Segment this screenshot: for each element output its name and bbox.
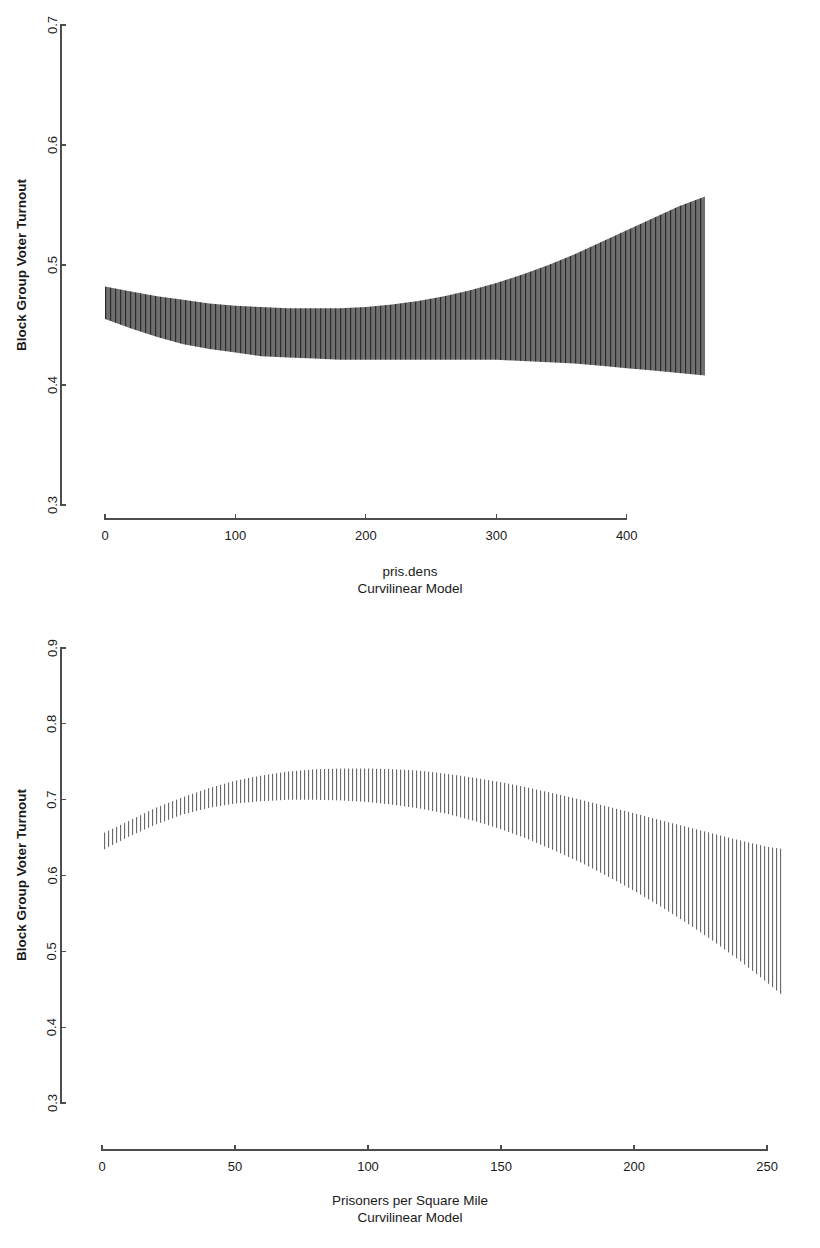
y-tick-label: 0.6: [45, 866, 60, 884]
chart-subtitle-1: Curvilinear Model: [357, 581, 462, 596]
y-axis-title-2: Block Group Voter Turnout: [14, 789, 29, 961]
y-axis-title-1: Block Group Voter Turnout: [14, 179, 29, 351]
x-tick-label: 200: [355, 528, 377, 543]
x-tick-label: 400: [616, 528, 638, 543]
y-tick-label: 0.7: [45, 16, 60, 34]
y-tick-label: 0.8: [45, 715, 60, 733]
band-region-2: [102, 769, 783, 996]
chart-panel-prisoners-per-square-mile: 0.30.40.50.60.70.80.9 050100150200250 Bl…: [0, 620, 820, 1248]
x-axis-title-2: Prisoners per Square Mile: [332, 1193, 488, 1208]
chart-panel-pris-dens: 0.30.40.50.60.7 0100200300400 Block Grou…: [0, 0, 820, 620]
x-tick-label: 0: [98, 1159, 105, 1174]
chart-subtitle-2: Curvilinear Model: [357, 1210, 462, 1225]
x-tick-label: 200: [623, 1159, 645, 1174]
plot-canvas-2: 0.30.40.50.60.70.80.9 050100150200250 Bl…: [0, 620, 820, 1248]
x-axis-2: 050100150200250: [98, 1145, 778, 1174]
y-tick-label: 0.4: [45, 1018, 60, 1036]
y-tick-label: 0.5: [45, 942, 60, 960]
y-tick-label: 0.5: [45, 256, 60, 274]
y-tick-label: 0.3: [45, 496, 60, 514]
x-tick-label: 150: [490, 1159, 512, 1174]
y-tick-label: 0.7: [45, 791, 60, 809]
y-tick-label: 0.9: [45, 639, 60, 657]
y-tick-label: 0.4: [45, 376, 60, 394]
x-tick-label: 250: [756, 1159, 778, 1174]
x-tick-label: 50: [228, 1159, 242, 1174]
y-axis-1: 0.30.40.50.60.7: [45, 16, 67, 514]
y-axis-2: 0.30.40.50.60.70.80.9: [45, 639, 67, 1112]
y-tick-label: 0.6: [45, 136, 60, 154]
x-tick-label: 100: [357, 1159, 379, 1174]
x-axis-1: 0100200300400: [101, 514, 637, 543]
plot-canvas-1: 0.30.40.50.60.7 0100200300400 Block Grou…: [0, 0, 820, 620]
x-tick-label: 100: [225, 528, 247, 543]
y-tick-label: 0.3: [45, 1094, 60, 1112]
x-axis-title-1: pris.dens: [383, 564, 438, 579]
x-tick-label: 0: [101, 528, 108, 543]
band-region-1: [105, 197, 705, 376]
x-tick-label: 300: [485, 528, 507, 543]
